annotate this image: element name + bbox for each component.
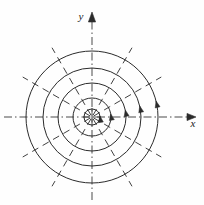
axes-group <box>4 12 196 200</box>
y-axis-arrowhead-icon <box>88 12 95 22</box>
direction-arrow-circle-4 <box>139 106 144 113</box>
direction-arrow-circle-5 <box>155 101 160 108</box>
direction-arrow-circle-3 <box>124 110 129 117</box>
x-axis-label: x <box>190 117 196 129</box>
direction-arrows-group <box>98 101 160 123</box>
y-axis-label: y <box>78 10 84 22</box>
polar-diagram-canvas: y x <box>0 0 204 205</box>
polar-diagram-figure: y x <box>0 0 204 205</box>
